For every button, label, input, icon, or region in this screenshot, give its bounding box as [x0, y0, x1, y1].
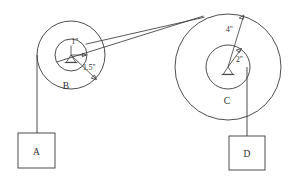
pulley-right-inner-dim-arrowhead [236, 48, 241, 52]
pulley-left-group: 1" 1.5" B [37, 21, 105, 91]
pulley-right-pivot-icon [223, 67, 233, 74]
load-a-label: A [33, 147, 40, 157]
pulley-right-inner-radius-label: 2" [236, 55, 243, 64]
pulley-right-label: C [224, 96, 230, 106]
diagram-svg: 1" 1.5" B 4" 2" C [0, 0, 292, 179]
load-d-label: D [244, 149, 251, 159]
load-d-group: D [229, 67, 265, 170]
load-a-group: A [18, 55, 55, 168]
belt-segment-lower [86, 17, 205, 44]
pulley-right-outer-radius-label: 4" [226, 25, 233, 34]
belt-group [57, 16, 205, 62]
pulley-right-group: 4" 2" C [175, 14, 281, 120]
pulley-left-outer-radius-label: 1.5" [83, 63, 95, 72]
pulley-diagram-canvas: 1" 1.5" B 4" 2" C [0, 0, 292, 179]
belt-segment-upper [57, 16, 204, 62]
pulley-left-inner-radius-label: 1" [72, 37, 79, 46]
pulley-left-label: B [63, 81, 69, 91]
